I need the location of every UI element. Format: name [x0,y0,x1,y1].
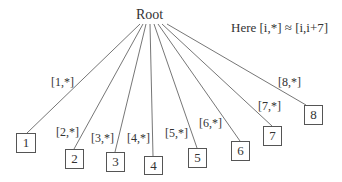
edge-label-8: [8,*] [278,76,301,88]
root-node-label: Root [136,8,163,22]
leaf-node-label: 6 [237,143,244,159]
edge-line-1 [27,24,140,133]
leaf-node-label: 7 [269,128,276,144]
leaf-node-label: 5 [194,150,201,166]
leaf-node-1: 1 [16,133,36,153]
leaf-node-6: 6 [231,141,250,161]
leaf-node-5: 5 [188,148,207,168]
leaf-node-label: 3 [112,154,119,170]
edge-label-3: [3,*] [91,132,114,144]
leaf-node-label: 4 [150,158,157,174]
edge-label-5: [5,*] [165,127,188,139]
leaf-node-label: 1 [23,135,30,151]
edge-label-1: [1,*] [51,76,74,88]
leaf-node-label: 2 [71,151,78,167]
edge-label-4: [4,*] [127,132,150,144]
annotation-note: Here [i,*] ≈ [i,i+7] [231,21,328,34]
leaf-node-8: 8 [304,105,323,125]
leaf-node-label: 8 [310,107,317,123]
edge-label-6: [6,*] [199,117,222,129]
edge-line-4 [150,24,153,156]
leaf-node-4: 4 [144,156,163,175]
edge-label-7: [7,*] [258,100,281,112]
leaf-node-2: 2 [65,149,84,169]
leaf-node-7: 7 [263,126,282,146]
edge-line-7 [162,24,272,126]
edge-label-2: [2,*] [56,126,79,138]
leaf-node-3: 3 [106,152,125,172]
